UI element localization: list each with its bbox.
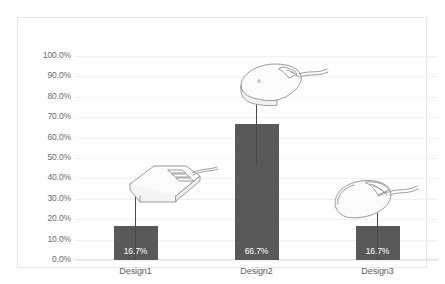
y-axis-tick-label: 30.0% [19, 193, 71, 203]
y-axis-tick-label: 60.0% [19, 132, 71, 142]
x-axis-category-label: Design1 [75, 266, 196, 276]
x-axis-category-label: Design2 [196, 266, 317, 276]
y-axis-tick-label: 70.0% [19, 111, 71, 121]
bar-value-label: 66.7% [235, 246, 279, 256]
x-axis-category-label: Design3 [317, 266, 438, 276]
error-bar [377, 187, 378, 260]
error-bar [256, 93, 257, 164]
plot-area: 16.7%66.7%16.7% [75, 56, 438, 260]
bar-group: 16.7% [75, 56, 196, 260]
y-axis-tick-label: 90.0% [19, 70, 71, 80]
bar-group: 66.7% [196, 56, 317, 260]
gridline [75, 260, 438, 261]
bar-group: 16.7% [317, 56, 438, 260]
y-axis-tick-label: 40.0% [19, 172, 71, 182]
y-axis-tick-label: 20.0% [19, 213, 71, 223]
y-axis-tick-labels: 0.0%10.0%20.0%30.0%40.0%50.0%60.0%70.0%8… [18, 56, 75, 260]
y-axis-tick-label: 0.0% [19, 254, 71, 264]
y-axis-tick-label: 80.0% [19, 91, 71, 101]
y-axis-tick-label: 50.0% [19, 152, 71, 162]
y-axis-tick-label: 10.0% [19, 234, 71, 244]
error-bar [135, 187, 136, 260]
y-axis-tick-label: 100.0% [19, 50, 71, 60]
chart-frame: 0.0%10.0%20.0%30.0%40.0%50.0%60.0%70.0%8… [17, 17, 427, 268]
